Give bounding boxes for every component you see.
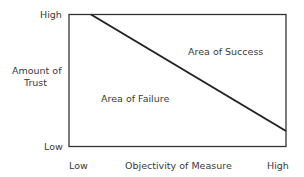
area-of-success-label: Area of Success (188, 46, 263, 57)
x-tick-high: High (267, 160, 289, 171)
area-of-failure-label: Area of Failure (101, 93, 169, 104)
y-axis-label-line2: Trust (24, 77, 47, 88)
y-tick-high: High (40, 9, 62, 20)
boundary-line (91, 15, 286, 132)
plot-frame (69, 15, 286, 147)
x-axis-label: Objectivity of Measure (125, 160, 232, 171)
x-tick-low: Low (69, 160, 88, 171)
y-axis-label-line1: Amount of (12, 65, 62, 76)
y-tick-low: Low (44, 141, 63, 152)
